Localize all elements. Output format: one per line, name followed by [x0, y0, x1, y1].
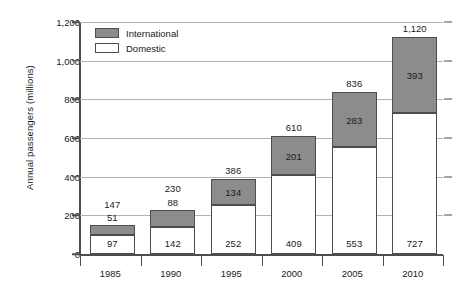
legend-item[interactable]: International [95, 26, 178, 40]
legend-swatch-domestic [95, 43, 119, 53]
x-tick-mark [383, 255, 384, 266]
x-tick-mark [262, 255, 263, 266]
legend-label: International [126, 28, 178, 39]
legend-swatch-international [95, 28, 119, 38]
x-tick-label: 2005 [322, 268, 382, 279]
legend-item[interactable]: Domestic [95, 41, 178, 55]
x-tick-mark [443, 255, 444, 266]
chart-legend: InternationalDomestic [95, 26, 178, 56]
x-tick-mark [141, 255, 142, 266]
x-tick-label: 1990 [141, 268, 201, 279]
x-axis-ticks: 198519901995200020052010 [0, 0, 476, 290]
x-tick-label: 1985 [80, 268, 140, 279]
x-tick-label: 1995 [201, 268, 261, 279]
stacked-bar-chart: Annual passengers (millions) 02004006008… [0, 0, 476, 290]
x-tick-mark [201, 255, 202, 266]
x-tick-label: 2010 [383, 268, 443, 279]
x-tick-mark [80, 255, 81, 266]
legend-label: Domestic [126, 43, 166, 54]
x-tick-mark [322, 255, 323, 266]
x-tick-label: 2000 [262, 268, 322, 279]
